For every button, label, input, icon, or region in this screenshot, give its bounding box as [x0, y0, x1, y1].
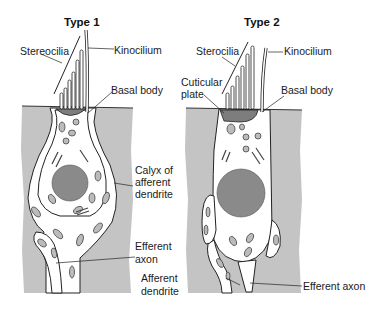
type1-label-efferent-2: axon [135, 253, 158, 265]
type2-label-cuticular-2: plate [181, 88, 204, 100]
type1-label-efferent-1: Efferent [135, 240, 172, 252]
type1-stereocilia [60, 50, 83, 109]
type2-label-cuticular-1: Cuticular [181, 76, 222, 88]
type1-title: Type 1 [64, 16, 100, 28]
type2-label-basal-body: Basal body [281, 84, 333, 96]
type1-nucleus [52, 165, 88, 201]
type1-label-basal-body: Basal body [111, 84, 163, 96]
type1-label-calyx-3: dendrite [135, 188, 173, 200]
type2-label-afferent-1: Afferent [141, 272, 178, 284]
type2-label-stereocilia: Sterocilia [196, 45, 239, 57]
type1-label-kinocilium: Kinocilium [114, 44, 162, 56]
type2-label-kinocilium: Kinocilium [284, 45, 332, 57]
type2-label-efferent-axon: Efferent axon [303, 280, 365, 292]
type2-nucleus [217, 169, 265, 217]
type2-title: Type 2 [244, 16, 280, 28]
type1-label-calyx-1: Calyx of [135, 164, 173, 176]
type2-label-afferent-2: dendrite [141, 285, 179, 297]
type1-hair-cell [21, 30, 135, 293]
type1-label-calyx-2: afferent [135, 176, 170, 188]
type1-label-stereocilia: Stereocilia [20, 45, 69, 57]
